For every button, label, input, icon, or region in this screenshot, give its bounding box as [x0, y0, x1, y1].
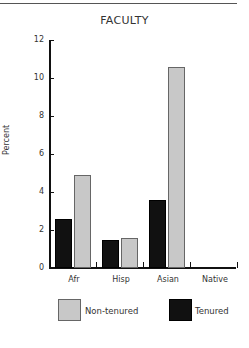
- y-tick: [49, 268, 54, 269]
- y-tick-label: 6: [30, 149, 44, 158]
- x-tick: [237, 262, 238, 268]
- chart-title: FACULTY: [0, 14, 249, 27]
- y-tick-label: 12: [30, 35, 44, 44]
- bar-hisp-tenured: [102, 240, 119, 269]
- y-tick-label: 8: [30, 111, 44, 120]
- legend-label-tenured: Tenured: [195, 306, 229, 316]
- x-tick: [96, 262, 97, 268]
- x-tick: [190, 262, 191, 268]
- y-tick: [49, 78, 54, 79]
- bar-asian-non-tenured: [168, 67, 185, 268]
- bar-asian-tenured: [149, 200, 166, 268]
- x-tick-label: Hisp: [101, 275, 141, 284]
- y-tick-label: 0: [30, 263, 44, 272]
- legend-label-non-tenured: Non-tenured: [85, 306, 138, 316]
- x-tick: [143, 262, 144, 268]
- y-tick-label: 4: [30, 187, 44, 196]
- bar-hisp-non-tenured: [121, 238, 138, 268]
- x-tick-label: Asian: [148, 275, 188, 284]
- top-rule: [0, 3, 237, 4]
- y-tick-label: 2: [30, 225, 44, 234]
- legend-swatch-tenured: [169, 299, 192, 321]
- y-tick: [49, 154, 54, 155]
- y-axis-label: Percent: [2, 125, 11, 155]
- y-tick-label: 10: [30, 73, 44, 82]
- legend-swatch-non-tenured: [58, 299, 81, 321]
- y-tick: [49, 192, 54, 193]
- y-tick: [49, 116, 54, 117]
- x-tick-label: Native: [195, 275, 235, 284]
- x-tick-label: Afr: [54, 275, 94, 284]
- bar-afr-tenured: [55, 219, 72, 268]
- y-tick: [49, 40, 54, 41]
- y-tick: [49, 230, 54, 231]
- bar-afr-non-tenured: [74, 175, 91, 268]
